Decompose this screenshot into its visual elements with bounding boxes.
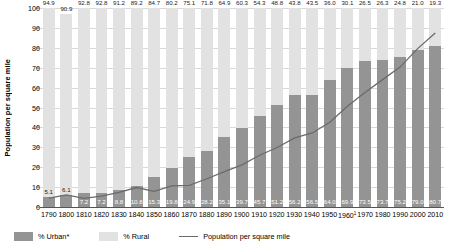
urban-value-label: 45.7 [254, 199, 266, 205]
x-tick-label: 1970 [356, 209, 374, 223]
x-tick-label: 1980 [374, 209, 392, 223]
urban-segment[interactable]: 73.7 [377, 60, 389, 207]
x-tick-label: 1880 [198, 209, 216, 223]
rural-value-label: 19.3 [429, 0, 441, 6]
urban-segment[interactable]: 8.8 [113, 190, 125, 208]
bar-column[interactable]: 91.28.8 [110, 8, 128, 207]
rural-segment[interactable]: 36.0 [324, 8, 336, 80]
bar-column[interactable]: 90.96.1 [58, 8, 76, 207]
rural-value-label: 26.5 [359, 0, 371, 6]
urban-segment[interactable]: 28.2 [201, 151, 213, 207]
urban-segment[interactable]: 69.9 [341, 68, 353, 207]
bar-column[interactable]: 54.345.7 [251, 8, 269, 207]
y-tick-mark [36, 67, 39, 68]
rural-segment[interactable]: 19.3 [429, 8, 441, 46]
y-tick-mark [36, 87, 39, 88]
rural-segment[interactable]: 54.3 [254, 8, 266, 116]
rural-segment[interactable]: 91.2 [113, 8, 125, 189]
x-tick-label: 1990 [391, 209, 409, 223]
rural-segment[interactable]: 26.3 [377, 8, 389, 60]
rural-value-label: 30.1 [341, 0, 353, 6]
bar-column[interactable]: 92.87.2 [75, 8, 93, 207]
bar-column[interactable]: 89.210.8 [128, 8, 146, 207]
bar-column[interactable]: 64.935.1 [216, 8, 234, 207]
urban-segment[interactable]: 73.5 [359, 61, 371, 207]
urban-value-label: 39.7 [236, 199, 248, 205]
urban-segment[interactable]: 35.1 [218, 137, 230, 207]
rural-value-label: 26.3 [377, 0, 389, 6]
urban-segment[interactable]: 7.2 [96, 193, 108, 207]
rural-value-label: 80.2 [166, 0, 178, 6]
urban-segment[interactable]: 51.2 [271, 105, 283, 207]
legend-item[interactable]: Population per square mile [179, 232, 290, 241]
bar-column[interactable]: 21.079.0 [409, 8, 427, 207]
bar-column[interactable]: 71.828.2 [198, 8, 216, 207]
bar-column[interactable]: 48.851.2 [268, 8, 286, 207]
bar-column[interactable]: 36.064.0 [321, 8, 339, 207]
bar-column[interactable]: 92.87.2 [93, 8, 111, 207]
rural-segment[interactable]: 21.0 [412, 8, 424, 50]
bar-column[interactable]: 94.95.1 [40, 8, 58, 207]
urban-value-label: 51.2 [271, 199, 283, 205]
urban-value-label: 80.7 [429, 199, 441, 205]
rural-segment[interactable]: 48.8 [271, 8, 283, 105]
rural-segment[interactable]: 75.1 [183, 8, 195, 157]
urban-segment[interactable]: 56.5 [306, 95, 318, 207]
bar-column[interactable]: 43.856.2 [286, 8, 304, 207]
bar-column[interactable]: 26.373.7 [374, 8, 392, 207]
urban-segment[interactable]: 39.7 [236, 128, 248, 207]
urban-segment[interactable]: 64.0 [324, 80, 336, 207]
urban-segment[interactable]: 75.2 [394, 57, 406, 207]
rural-value-label: 60.3 [236, 0, 248, 6]
rural-segment[interactable]: 64.9 [218, 8, 230, 137]
rural-segment[interactable]: 94.9 [43, 8, 55, 197]
rural-value-label: 90.9 [60, 6, 72, 12]
bar-columns: 94.95.190.96.192.87.292.87.291.28.889.21… [40, 8, 444, 207]
bar-column[interactable]: 60.339.7 [233, 8, 251, 207]
urban-segment[interactable]: 19.8 [166, 168, 178, 207]
bar-column[interactable]: 80.219.8 [163, 8, 181, 207]
urban-segment[interactable]: 24.9 [183, 157, 195, 207]
urban-segment[interactable]: 45.7 [254, 116, 266, 207]
population-density-chart: Population per square mile 0102030405060… [0, 0, 451, 251]
urban-segment[interactable]: 15.3 [148, 177, 160, 207]
bar-column[interactable]: 24.875.2 [391, 8, 409, 207]
urban-segment[interactable]: 80.7 [429, 46, 441, 207]
rural-segment[interactable]: 30.1 [341, 8, 353, 68]
rural-segment[interactable]: 43.5 [306, 8, 318, 95]
urban-value-label: 56.5 [306, 199, 318, 205]
legend-line-marker [179, 236, 198, 237]
bar-column[interactable]: 43.556.5 [303, 8, 321, 207]
rural-value-label: 21.0 [412, 0, 424, 6]
rural-segment[interactable]: 89.2 [131, 8, 143, 186]
y-tick-mark [36, 47, 39, 48]
rural-segment[interactable]: 60.3 [236, 8, 248, 128]
urban-segment[interactable]: 6.1 [60, 195, 72, 207]
urban-segment[interactable]: 79.0 [412, 50, 424, 207]
bar-column[interactable]: 84.715.3 [145, 8, 163, 207]
bar-column[interactable]: 75.124.9 [181, 8, 199, 207]
x-axis-labels: 1790180018101820183018401850186018701880… [40, 209, 444, 223]
rural-segment[interactable]: 71.8 [201, 8, 213, 151]
legend-item[interactable]: % Urban* [14, 232, 69, 241]
rural-segment[interactable]: 26.5 [359, 8, 371, 61]
rural-value-label: 48.8 [271, 0, 283, 6]
bar-column[interactable]: 19.380.7 [426, 8, 444, 207]
bar-column[interactable]: 26.573.5 [356, 8, 374, 207]
rural-segment[interactable]: 92.8 [96, 8, 108, 193]
bar-column[interactable]: 30.169.9 [339, 8, 357, 207]
rural-value-label: 89.2 [131, 0, 143, 6]
urban-segment[interactable]: 5.1 [43, 197, 55, 207]
urban-segment[interactable]: 7.2 [78, 193, 90, 207]
rural-segment[interactable]: 43.8 [289, 8, 301, 95]
rural-segment[interactable]: 80.2 [166, 8, 178, 168]
urban-segment[interactable]: 10.8 [131, 186, 143, 207]
legend-item[interactable]: % Rural [99, 232, 149, 241]
rural-segment[interactable]: 90.9 [60, 14, 72, 195]
legend-label: % Urban* [38, 232, 69, 241]
rural-segment[interactable]: 24.8 [394, 8, 406, 57]
rural-segment[interactable]: 84.7 [148, 8, 160, 177]
urban-segment[interactable]: 56.2 [289, 95, 301, 207]
rural-segment[interactable]: 92.8 [78, 8, 90, 193]
x-tick-label: 1930 [285, 209, 303, 223]
